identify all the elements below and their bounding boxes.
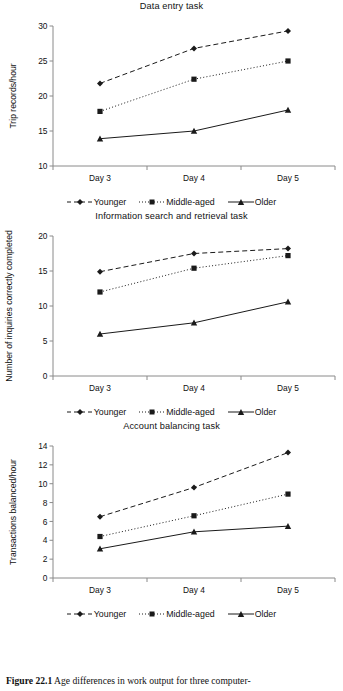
legend-label: Younger: [94, 407, 126, 417]
svg-text:Number of inquiries correctly: Number of inquiries correctly completed: [4, 230, 14, 382]
figure-caption-label: Figure 22.1: [6, 675, 52, 686]
figure-caption-text: Age differences in work output for three…: [54, 675, 251, 686]
svg-text:20: 20: [38, 231, 48, 241]
svg-text:Day 3: Day 3: [89, 383, 111, 393]
svg-text:8: 8: [43, 498, 48, 508]
chart-legend: Younger Middle-aged Older: [0, 404, 343, 420]
legend-item-younger[interactable]: Younger: [67, 407, 126, 417]
chart-panel-data-entry: Data entry task 1015202530Day 3Day 4Day …: [0, 0, 343, 210]
svg-text:Day 5: Day 5: [277, 383, 299, 393]
legend-item-younger[interactable]: Younger: [67, 609, 126, 619]
legend-label: Middle-aged: [166, 407, 214, 417]
square-marker: [139, 407, 165, 417]
legend-label: Younger: [94, 197, 126, 207]
square-marker: [139, 197, 165, 207]
svg-text:10: 10: [38, 479, 48, 489]
diamond-marker: [67, 407, 93, 417]
svg-text:Transactions balanced/hour: Transactions balanced/hour: [8, 459, 18, 565]
chart-legend: Younger Middle-aged Older: [0, 194, 343, 210]
legend-item-middle-aged[interactable]: Middle-aged: [139, 407, 214, 417]
svg-text:Trip records/hour: Trip records/hour: [8, 63, 18, 128]
svg-text:Day 5: Day 5: [277, 173, 299, 183]
svg-text:0: 0: [43, 573, 48, 583]
svg-text:Day 5: Day 5: [277, 585, 299, 595]
svg-text:0: 0: [43, 371, 48, 381]
legend-item-older[interactable]: Older: [228, 609, 277, 619]
legend-label: Older: [255, 197, 277, 207]
legend-item-middle-aged[interactable]: Middle-aged: [139, 197, 214, 207]
chart-panel-information-search: Information search and retrieval task 05…: [0, 210, 343, 420]
square-marker: [139, 609, 165, 619]
chart-title: Account balancing task: [0, 420, 343, 434]
chart-title: Information search and retrieval task: [0, 210, 343, 224]
svg-text:4: 4: [43, 535, 48, 545]
diamond-marker: [67, 197, 93, 207]
svg-text:15: 15: [38, 126, 48, 136]
svg-text:14: 14: [38, 441, 48, 451]
svg-text:2: 2: [43, 554, 48, 564]
figure-caption: Figure 22.1 Age differences in work outp…: [0, 674, 343, 687]
line-chart-svg: 1015202530Day 3Day 4Day 5Trip records/ho…: [0, 14, 343, 194]
svg-text:10: 10: [38, 301, 48, 311]
legend-item-younger[interactable]: Younger: [67, 197, 126, 207]
chart-plot-area: 02468101214Day 3Day 4Day 5Transactions b…: [0, 434, 343, 606]
svg-text:25: 25: [38, 56, 48, 66]
legend-label: Older: [255, 407, 277, 417]
figure-22-1: Data entry task 1015202530Day 3Day 4Day …: [0, 0, 343, 691]
svg-text:12: 12: [38, 460, 48, 470]
svg-text:6: 6: [43, 517, 48, 527]
diamond-marker: [67, 609, 93, 619]
legend-label: Younger: [94, 609, 126, 619]
chart-legend: Younger Middle-aged Older: [0, 606, 343, 622]
svg-text:10: 10: [38, 161, 48, 171]
svg-text:20: 20: [38, 91, 48, 101]
line-chart-svg: 02468101214Day 3Day 4Day 5Transactions b…: [0, 434, 343, 606]
legend-label: Older: [255, 609, 277, 619]
legend-item-middle-aged[interactable]: Middle-aged: [139, 609, 214, 619]
chart-plot-area: 05101520Day 3Day 4Day 5Number of inquiri…: [0, 224, 343, 404]
legend-item-older[interactable]: Older: [228, 407, 277, 417]
svg-text:Day 4: Day 4: [183, 173, 205, 183]
legend-label: Middle-aged: [166, 197, 214, 207]
triangle-marker: [228, 197, 254, 207]
triangle-marker: [228, 609, 254, 619]
svg-text:Day 3: Day 3: [89, 173, 111, 183]
svg-text:Day 3: Day 3: [89, 585, 111, 595]
svg-text:Day 4: Day 4: [183, 585, 205, 595]
svg-text:5: 5: [43, 336, 48, 346]
legend-label: Middle-aged: [166, 609, 214, 619]
line-chart-svg: 05101520Day 3Day 4Day 5Number of inquiri…: [0, 224, 343, 404]
triangle-marker: [228, 407, 254, 417]
svg-text:30: 30: [38, 21, 48, 31]
chart-plot-area: 1015202530Day 3Day 4Day 5Trip records/ho…: [0, 14, 343, 194]
svg-text:15: 15: [38, 266, 48, 276]
legend-item-older[interactable]: Older: [228, 197, 277, 207]
svg-text:Day 4: Day 4: [183, 383, 205, 393]
chart-title: Data entry task: [0, 0, 343, 14]
chart-panel-account-balancing: Account balancing task 02468101214Day 3D…: [0, 420, 343, 622]
